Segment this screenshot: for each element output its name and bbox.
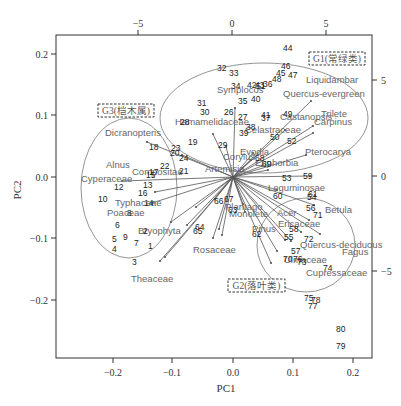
sample-label: 50 — [270, 132, 280, 142]
species-label: Acer — [277, 207, 297, 218]
g3-ellipse — [81, 118, 177, 258]
sample-label: 4 — [112, 244, 117, 254]
sample-label: 17 — [149, 167, 159, 177]
sample-label: 67 — [224, 194, 234, 204]
sample-label: 39 — [239, 128, 249, 138]
arrow-head — [270, 262, 272, 264]
top-axis: −505 — [133, 18, 329, 35]
sample-label: 74 — [323, 263, 333, 273]
y-tick-label: −0.1 — [30, 233, 48, 244]
sample-label: 19 — [188, 137, 198, 147]
species-label: Cupressaceae — [306, 267, 367, 278]
arrow-head — [234, 107, 236, 109]
g3-label: G3(桤木属) — [102, 105, 150, 117]
arrow-head — [146, 141, 148, 143]
sample-label: 7 — [134, 238, 139, 248]
group-g1-box: G1(常绿类) — [309, 52, 365, 65]
arrow-head — [310, 100, 312, 102]
sample-label: 22 — [160, 161, 170, 171]
g2-label: G2(落叶类) — [233, 280, 281, 292]
sample-label: 52 — [287, 136, 297, 146]
arrow-head — [312, 132, 314, 134]
sample-label: 34 — [231, 81, 241, 91]
arrow-head — [319, 233, 321, 235]
species-label: Alnus — [106, 159, 130, 170]
species-label: Cyperaceae — [81, 173, 132, 184]
x-tick-label: −0.2 — [104, 367, 122, 378]
pca-biplot: DicranopterisAlnusCyperaceaeCompositaeTy… — [0, 0, 401, 406]
right-tick-label: 5 — [381, 75, 386, 86]
arrow-head — [159, 260, 161, 262]
sample-label: 28 — [180, 117, 190, 127]
sample-label: 33 — [229, 68, 239, 78]
y-tick-label: 0.0 — [36, 172, 49, 183]
sample-label: 72 — [304, 234, 314, 244]
right-tick-label: −5 — [381, 266, 392, 277]
y-axis-title: PC2 — [11, 181, 23, 200]
sample-label: 35 — [238, 96, 248, 106]
x-tick-label: 0.2 — [347, 367, 360, 378]
sample-label: 18 — [149, 142, 159, 152]
sample-label: 49 — [283, 109, 293, 119]
sample-label: 69 — [262, 159, 272, 169]
sample-label: 78 — [311, 295, 321, 305]
loading-arrow — [233, 176, 310, 177]
sample-label: 47 — [288, 70, 298, 80]
top-tick-label: 5 — [324, 18, 329, 29]
sample-label: 16 — [138, 188, 148, 198]
arrow-head — [218, 228, 220, 230]
species-label: Liquidambar — [306, 74, 358, 85]
sample-label: 48 — [272, 74, 282, 84]
species-label: Dicranopteris — [105, 127, 161, 138]
y-tick-label: 0.2 — [36, 49, 49, 60]
sample-label: 76 — [293, 254, 303, 264]
sample-label: 44 — [283, 43, 293, 53]
sample-label: 21 — [179, 166, 189, 176]
sample-label: 6 — [115, 220, 120, 230]
sample-label: 70 — [283, 254, 293, 264]
sample-label: 23 — [171, 143, 181, 153]
species-label: Rosaceae — [193, 244, 236, 255]
g1-label: G1(常绿类) — [313, 53, 361, 65]
sample-label: 41 — [261, 110, 271, 120]
top-tick-label: 0 — [230, 18, 235, 29]
sample-label: 31 — [197, 98, 207, 108]
x-tick-label: −0.1 — [163, 367, 181, 378]
sample-label: 10 — [98, 194, 108, 204]
arrow-head — [267, 169, 269, 171]
left-axis: 0.20.10.0−0.1−0.2 — [30, 49, 56, 306]
x-tick-label: 0.1 — [287, 367, 300, 378]
species-label: Fagus — [342, 246, 369, 257]
sample-label: 12 — [114, 182, 124, 192]
sample-label: 32 — [217, 63, 227, 73]
sample-label: 1 — [148, 241, 153, 251]
sample-label: 58 — [289, 224, 299, 234]
y-tick-label: 0.1 — [36, 110, 49, 121]
arrow-head — [276, 250, 278, 252]
sample-label: 14 — [144, 198, 154, 208]
arrow-head — [212, 237, 214, 239]
species-label: Poaceae — [107, 207, 145, 218]
group-g3-box: G3(桤木属) — [98, 104, 154, 117]
y-tick-label: −0.2 — [30, 295, 48, 306]
species-label: Artemisia — [205, 163, 245, 174]
top-tick-label: −5 — [133, 18, 144, 29]
sample-label: 51 — [256, 81, 266, 91]
sample-label: 24 — [179, 153, 189, 163]
sample-label: 61 — [308, 189, 318, 199]
sample-label: 27 — [238, 112, 248, 122]
sample-label: 80 — [336, 324, 346, 334]
sample-label: 26 — [224, 107, 234, 117]
species-label: Theaceae — [131, 273, 173, 284]
sample-label: 60 — [273, 191, 283, 201]
arrow-head — [154, 191, 156, 193]
sample-label: 29 — [218, 140, 228, 150]
arrow-head — [186, 224, 188, 226]
sample-label: 30 — [200, 107, 210, 117]
sample-label: 53 — [282, 173, 292, 183]
x-axis-title: PC1 — [217, 382, 236, 394]
sample-label: 2 — [143, 226, 148, 236]
bottom-axis: −0.2−0.10.00.10.2 — [104, 358, 359, 378]
sample-label: 63 — [228, 205, 238, 215]
species-label: Carpinus — [314, 116, 352, 127]
